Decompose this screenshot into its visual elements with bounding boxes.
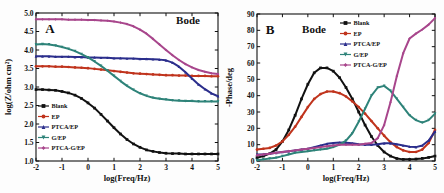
y-tick-label: 2.5 (24, 101, 34, 110)
marker-square (139, 146, 142, 149)
marker-circle (48, 65, 51, 68)
x-tick-label: 3 (382, 163, 386, 172)
marker-square (408, 158, 411, 161)
y-tick-label: 20 (247, 124, 255, 133)
marker-circle (67, 66, 70, 69)
marker-square (370, 135, 373, 138)
marker-circle (262, 147, 265, 150)
marker-square (87, 102, 90, 105)
x-axis-label: log(Freq/Hz) (323, 173, 370, 183)
marker-circle (345, 95, 348, 98)
marker-square (357, 111, 360, 114)
marker-square (67, 92, 70, 95)
y-tick-label: 3.0 (24, 83, 34, 92)
marker-circle (80, 66, 83, 69)
y-tick-label: 90 (247, 10, 255, 19)
marker-circle (158, 73, 161, 76)
marker-square (427, 156, 430, 159)
marker-square (345, 86, 348, 89)
marker-square (256, 156, 259, 159)
legend-label-g-ep: G/EP (52, 134, 67, 141)
y-tick-label: 2.0 (24, 120, 34, 129)
marker-square (313, 71, 316, 74)
marker-circle (256, 148, 259, 151)
marker-circle (415, 151, 418, 154)
marker-circle (61, 65, 64, 68)
x-tick-label: 0 (306, 163, 310, 172)
marker-circle (307, 106, 310, 109)
legend-label-blank: Blank (52, 102, 68, 109)
marker-circle (93, 68, 96, 71)
x-tick-label: 3 (164, 163, 168, 172)
marker-circle (126, 71, 129, 74)
marker-square (204, 153, 207, 156)
marker-square (307, 83, 310, 86)
marker-square (48, 89, 51, 92)
bode-plot-figure: -2-10123451.01.52.02.53.03.54.04.55.0log… (0, 0, 444, 193)
x-tick-label: 4 (190, 163, 194, 172)
marker-square (158, 151, 161, 154)
marker-circle (370, 120, 373, 123)
marker-circle (204, 75, 207, 78)
y-tick-label: 60 (247, 59, 255, 68)
marker-circle (210, 75, 213, 78)
marker-square (319, 67, 322, 70)
marker-square (106, 120, 109, 123)
y-tick-label: 50 (247, 75, 255, 84)
marker-square (217, 153, 220, 156)
y-tick-label: 0 (251, 157, 255, 166)
marker-circle (54, 65, 57, 68)
marker-square (197, 153, 200, 156)
y-tick-label: 3.5 (24, 64, 34, 73)
marker-square (152, 150, 155, 153)
panel-b-canvas: -2-10123450102030405060708090log(Freq/Hz… (222, 0, 444, 193)
marker-circle (313, 98, 316, 101)
marker-square (332, 70, 335, 73)
x-tick-label: 4 (408, 163, 412, 172)
marker-circle (294, 125, 297, 128)
y-tick-label: 1.5 (24, 138, 34, 147)
marker-square (287, 129, 290, 132)
y-axis-label: log(Z/ohm cm²) (3, 59, 13, 115)
marker-square (326, 67, 329, 70)
marker-square (80, 97, 83, 100)
y-tick-label: 4.5 (24, 27, 34, 36)
marker-square (300, 98, 303, 101)
marker-circle (42, 115, 46, 119)
marker-circle (113, 70, 116, 73)
marker-circle (74, 66, 77, 69)
marker-square (338, 76, 341, 79)
marker-square (41, 88, 44, 91)
legend-label-ep: EP (354, 30, 362, 37)
marker-circle (357, 106, 360, 109)
marker-square (132, 143, 135, 146)
bode-annotation: Bode (176, 14, 200, 26)
panel-letter: A (45, 21, 55, 36)
x-tick-label: -2 (254, 163, 260, 172)
x-tick-label: -2 (33, 163, 39, 172)
marker-circle (178, 74, 181, 77)
marker-circle (319, 93, 322, 96)
marker-square (402, 158, 405, 161)
x-tick-label: -1 (59, 163, 65, 172)
marker-circle (184, 74, 187, 77)
marker-circle (41, 65, 44, 68)
marker-square (191, 153, 194, 156)
legend-label-ep: EP (52, 113, 60, 120)
marker-square (178, 152, 181, 155)
x-axis-label: log(Freq/Hz) (104, 173, 151, 183)
marker-circle (281, 140, 284, 143)
panel-letter: B (266, 22, 275, 37)
marker-circle (100, 68, 103, 71)
x-tick-label: 0 (86, 163, 90, 172)
marker-circle (119, 70, 122, 73)
marker-square (421, 157, 424, 160)
marker-square (119, 133, 122, 136)
marker-square (113, 126, 116, 129)
marker-square (42, 104, 46, 108)
marker-square (74, 94, 77, 97)
legend-label-ptca-g-ep: PTCA-G/EP (354, 61, 388, 68)
marker-square (184, 153, 187, 156)
marker-square (294, 114, 297, 117)
marker-circle (344, 32, 348, 36)
